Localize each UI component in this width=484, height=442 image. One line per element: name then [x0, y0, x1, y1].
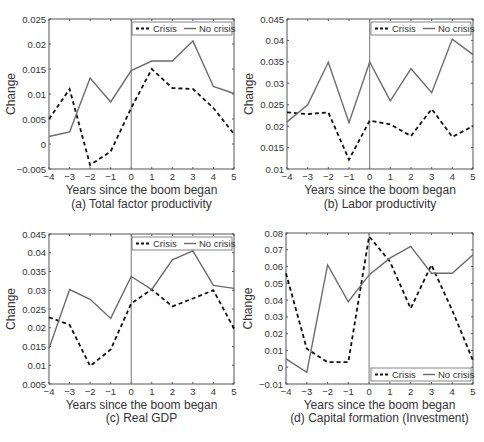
y-tick-label: 0.045 [260, 14, 284, 25]
y-tick-label: 0.035 [260, 56, 284, 67]
x-tick-label: 1 [149, 171, 154, 182]
y-tick-label: −0.005 [17, 164, 46, 175]
y-tick-label: 0.08 [265, 228, 284, 239]
legend-crisis-label: Crisis [392, 23, 416, 34]
y-tick-label: 0.045 [22, 229, 46, 240]
y-tick-label: 0.03 [28, 285, 47, 296]
x-tick-label: 5 [231, 171, 236, 182]
y-tick-label: 0.02 [28, 322, 47, 333]
legend-no-crisis-label: No crisis [438, 23, 475, 34]
x-tick-label: 1 [387, 386, 392, 397]
x-tick-label: −3 [64, 386, 75, 397]
legend: CrisisNo crisis [371, 368, 475, 381]
y-tick-label: 0.05 [265, 278, 284, 289]
x-tick-label: −1 [105, 171, 116, 182]
legend-no-crisis-label: No crisis [438, 369, 475, 380]
x-tick-label: −2 [85, 386, 96, 397]
x-axis-label: Years since the boom began [66, 183, 218, 197]
y-tick-label: 0.01 [28, 360, 47, 371]
x-tick-label: 3 [429, 386, 434, 397]
x-tick-label: −2 [322, 386, 333, 397]
x-tick-label: 2 [170, 171, 175, 182]
x-tick-label: 5 [470, 386, 475, 397]
x-axis-label: Years since the boom began [304, 398, 456, 412]
y-tick-label: 0.035 [22, 266, 46, 277]
x-tick-label: 2 [408, 171, 413, 182]
legend-crisis-label: Crisis [392, 369, 416, 380]
x-tick-label: 4 [450, 386, 455, 397]
y-tick-label: 0.06 [265, 261, 284, 272]
x-tick-label: 2 [408, 386, 413, 397]
legend-crisis-label: Crisis [153, 23, 177, 34]
legend: CrisisNo crisis [132, 22, 236, 35]
legend-no-crisis-label: No crisis [199, 23, 236, 34]
x-tick-label: 0 [366, 386, 371, 397]
charts-canvas: −4−3−2−1012345−0.00500.0050.010.0150.020… [0, 0, 484, 442]
x-tick-label: 3 [190, 171, 195, 182]
y-tick-label: 0.03 [266, 78, 285, 89]
plot-area [287, 19, 473, 169]
chart-d: −4−3−2−1012345−0.0100.010.020.030.040.05… [241, 228, 476, 426]
y-tick-label: 0.04 [28, 247, 47, 258]
y-tick-label: 0.01 [28, 89, 47, 100]
y-tick-label: 0.07 [265, 244, 284, 255]
x-tick-label: 0 [367, 171, 372, 182]
x-tick-label: −1 [343, 386, 354, 397]
y-axis-label: Change [4, 73, 18, 115]
chart-caption: (c) Real GDP [106, 411, 177, 425]
y-tick-label: 0.02 [265, 328, 284, 339]
y-tick-label: −0.01 [259, 379, 283, 390]
x-tick-label: 0 [129, 171, 134, 182]
x-tick-label: −1 [105, 386, 116, 397]
y-tick-label: 0.02 [266, 121, 285, 132]
x-tick-label: −2 [323, 171, 334, 182]
legend: CrisisNo crisis [371, 22, 475, 35]
x-tick-label: 3 [429, 171, 434, 182]
x-tick-label: 4 [211, 386, 216, 397]
y-axis-label: Change [241, 287, 255, 329]
y-tick-label: 0.03 [265, 311, 284, 322]
y-tick-label: 0.025 [22, 14, 46, 25]
legend-crisis-label: Crisis [153, 238, 177, 249]
x-tick-label: 5 [231, 386, 236, 397]
x-tick-label: 4 [450, 171, 455, 182]
y-tick-label: 0.005 [22, 114, 46, 125]
chart-caption: (b) Labor productivity [324, 197, 437, 211]
y-tick-label: 0.04 [266, 35, 285, 46]
x-axis-label: Years since the boom began [66, 398, 218, 412]
x-tick-label: −3 [302, 171, 313, 182]
x-tick-label: 1 [149, 386, 154, 397]
y-tick-label: 0.01 [266, 164, 285, 175]
y-tick-label: 0.015 [260, 142, 284, 153]
y-tick-label: 0 [278, 362, 283, 373]
y-tick-label: 0.025 [260, 99, 284, 110]
y-axis-label: Change [4, 288, 18, 330]
y-tick-label: 0.01 [265, 345, 284, 356]
y-tick-label: 0.005 [22, 379, 46, 390]
x-tick-label: 5 [470, 171, 475, 182]
y-axis-label: Change [242, 73, 256, 115]
plot-area [286, 233, 473, 384]
plot-area [49, 19, 234, 169]
x-tick-label: −3 [301, 386, 312, 397]
y-tick-label: 0.025 [22, 304, 46, 315]
y-tick-label: 0.015 [22, 64, 46, 75]
plot-area [49, 234, 234, 384]
x-tick-label: −1 [344, 171, 355, 182]
chart-c: −4−3−2−10123450.0050.010.0150.020.0250.0… [4, 229, 237, 426]
y-tick-label: 0 [41, 139, 46, 150]
x-tick-label: −3 [64, 171, 75, 182]
x-tick-label: 0 [129, 386, 134, 397]
chart-caption: (d) Capital formation (Investment) [290, 411, 469, 425]
y-tick-label: 0.02 [28, 39, 47, 50]
chart-a: −4−3−2−1012345−0.00500.0050.010.0150.020… [4, 14, 237, 212]
legend: CrisisNo crisis [132, 237, 236, 250]
x-tick-label: 4 [211, 171, 216, 182]
y-tick-label: 0.04 [265, 295, 284, 306]
x-tick-label: 2 [170, 386, 175, 397]
chart-caption: (a) Total factor productivity [71, 197, 212, 211]
y-tick-label: 0.015 [22, 341, 46, 352]
x-tick-label: 3 [190, 386, 195, 397]
x-axis-label: Years since the boom began [304, 183, 456, 197]
x-tick-label: −2 [85, 171, 96, 182]
